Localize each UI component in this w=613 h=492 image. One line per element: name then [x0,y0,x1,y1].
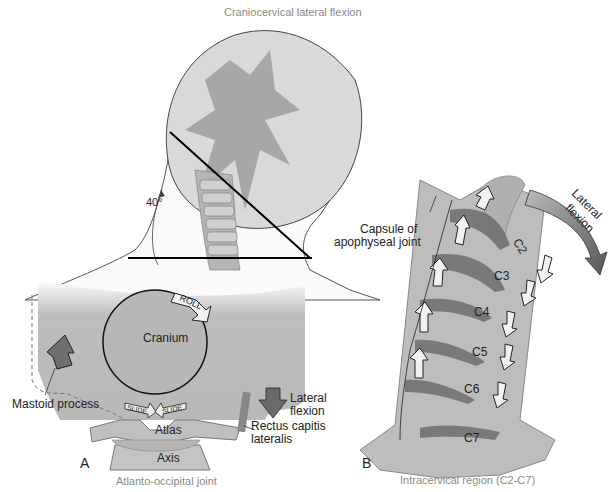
lateral-flexion-label-a2: flexion [290,405,325,418]
panel-b-letter: B [362,455,371,471]
panel-b-caption: Intracervical region (C2-C7) [400,474,535,486]
vertebra-c5-label: C5 [472,346,487,359]
cranium-label: Cranium [143,332,188,345]
figure-title: Craniocervical lateral flexion [224,6,362,18]
capsule-label-2: apophyseal joint [334,236,421,249]
vertebra-c6-label: C6 [464,383,479,396]
head-figure [25,31,380,300]
panel-a-caption: Atlanto-occipital joint [116,475,217,487]
vertebra-c7-label: C7 [464,432,479,445]
vertebra-c3-label: C3 [494,270,509,283]
atlas-label: Atlas [155,424,182,437]
rectus-capitis-label-2: lateralis [251,433,292,446]
angle-label: 40° [146,196,163,209]
vertebra-c4-label: C4 [474,306,489,319]
mastoid-process-label: Mastoid process [12,398,99,411]
axis-label: Axis [157,452,180,465]
panel-a-letter: A [80,455,89,471]
